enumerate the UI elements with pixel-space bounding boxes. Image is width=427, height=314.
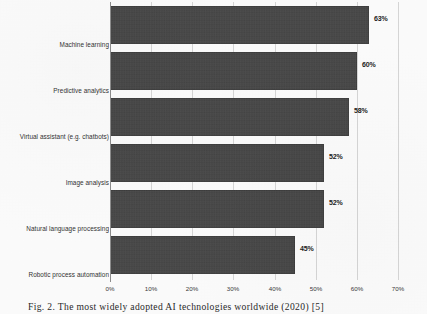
bar: [110, 144, 324, 182]
bar-rows: Machine learning63%Predictive analytics6…: [0, 0, 427, 282]
bar-row: Virtual assistant (e.g. chatbots)58%: [0, 94, 427, 140]
bar-row: Machine learning63%: [0, 2, 427, 48]
category-label: Robotic process automation: [0, 271, 109, 279]
x-tick-label: 20%: [177, 285, 207, 292]
x-tick-label: 70%: [383, 285, 413, 292]
x-tick-label: 60%: [342, 285, 372, 292]
y-axis-line: [110, 2, 111, 282]
bar-row: Robotic process automation45%: [0, 232, 427, 278]
bar-row: Image analysis52%: [0, 140, 427, 186]
bar-row: Predictive analytics60%: [0, 48, 427, 94]
bar-value-label: 52%: [329, 153, 343, 160]
figure-caption-clip: Fig. 2. The most widely adopted AI techn…: [0, 301, 427, 314]
x-tick-label: 0%: [95, 285, 125, 292]
figure-caption: Fig. 2. The most widely adopted AI techn…: [28, 301, 408, 312]
x-tick-label: 30%: [218, 285, 248, 292]
bar-value-label: 58%: [354, 107, 368, 114]
bar-chart-plot-area: Machine learning63%Predictive analytics6…: [0, 0, 427, 282]
x-axis-tick-labels: 0%10%20%30%40%50%60%70%: [0, 282, 427, 298]
bar-value-label: 63%: [374, 15, 388, 22]
bar: [110, 190, 324, 228]
x-tick-label: 50%: [301, 285, 331, 292]
bar: [110, 236, 295, 274]
bar: [110, 6, 369, 44]
bar-value-label: 45%: [300, 245, 314, 252]
bar: [110, 52, 357, 90]
bar-row: Natural language processing52%: [0, 186, 427, 232]
x-tick-label: 10%: [136, 285, 166, 292]
figure-container: Machine learning63%Predictive analytics6…: [0, 0, 427, 314]
bar-value-label: 60%: [362, 61, 376, 68]
x-tick-label: 40%: [260, 285, 290, 292]
bar-value-label: 52%: [329, 199, 343, 206]
bar: [110, 98, 349, 136]
